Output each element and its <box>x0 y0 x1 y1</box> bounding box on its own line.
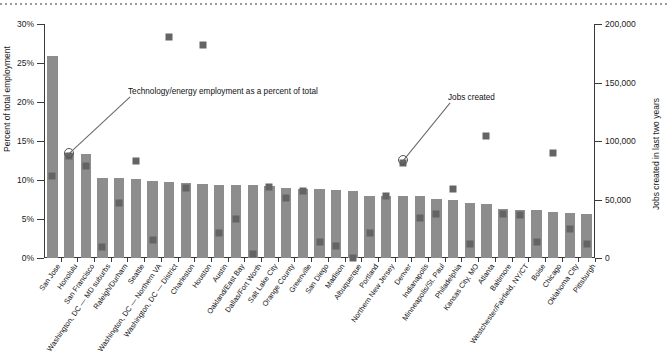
y-tick-right <box>595 200 602 201</box>
marker <box>82 162 89 169</box>
tech-employment-leader-line <box>69 96 131 153</box>
tech-employment-annotation-text: Technology/energy employment as a percen… <box>128 87 318 96</box>
y-tick-label-left: 5% <box>22 214 34 224</box>
marker <box>366 230 373 237</box>
top-dotted-rule <box>0 3 669 5</box>
x-axis-labels: San JoseHonoluluSan FranciscoWashington,… <box>44 262 595 356</box>
marker <box>383 192 390 199</box>
y-tick-label-left: 0% <box>22 253 34 263</box>
y-tick-label-left: 10% <box>17 175 34 185</box>
y-tick-left <box>37 63 44 64</box>
y-tick-left <box>37 258 44 259</box>
y-tick-right <box>595 24 602 25</box>
marker <box>166 33 173 40</box>
y-tick-label-right: 50,000 <box>605 195 631 205</box>
jobs-created-leader-line <box>403 102 451 160</box>
marker <box>450 185 457 192</box>
marker <box>216 230 223 237</box>
y-tick-label-left: 30% <box>17 19 34 29</box>
y-tick-label-left: 25% <box>17 58 34 68</box>
y-tick-label-right: 200,000 <box>605 19 636 29</box>
y-tick-label-left: 15% <box>17 136 34 146</box>
y-tick-left <box>37 219 44 220</box>
bar <box>47 56 57 258</box>
marker <box>182 184 189 191</box>
y-tick-label-left: 20% <box>17 97 34 107</box>
y-tick-left <box>37 102 44 103</box>
marker <box>49 173 56 180</box>
marker <box>283 195 290 202</box>
marker <box>550 149 557 156</box>
chart-root: Percent of total employment Jobs created… <box>0 0 669 356</box>
y-tick-left <box>37 180 44 181</box>
marker <box>233 216 240 223</box>
jobs-created-annotation-text: Jobs created <box>448 93 495 102</box>
marker <box>266 183 273 190</box>
y-axis-title-left: Percent of total employment <box>2 46 12 152</box>
y-tick-left <box>37 24 44 25</box>
marker <box>500 210 507 217</box>
y-axis-left-spine <box>44 24 45 258</box>
y-axis-title-right: Jobs created in last two years <box>651 98 661 210</box>
marker <box>566 225 573 232</box>
y-tick-right <box>595 141 602 142</box>
marker <box>516 211 523 218</box>
y-tick-label-right: 150,000 <box>605 78 636 88</box>
y-tick-label-right: 100,000 <box>605 136 636 146</box>
y-tick-left <box>37 141 44 142</box>
y-tick-right <box>595 83 602 84</box>
marker <box>199 42 206 49</box>
marker <box>483 133 490 140</box>
marker <box>132 157 139 164</box>
marker <box>299 188 306 195</box>
marker <box>116 200 123 207</box>
